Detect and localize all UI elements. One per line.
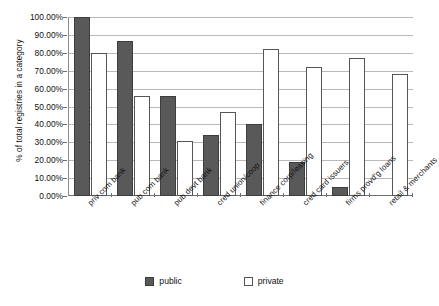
bar-public[interactable]: [74, 17, 90, 196]
y-axis-tick: [63, 142, 67, 143]
y-axis-tick: [63, 178, 67, 179]
y-axis-tick: [63, 89, 67, 90]
y-axis-tick: [63, 107, 67, 108]
y-axis-tick-label: 80.00%: [3, 48, 63, 58]
y-axis-tick-label: 100.00%: [3, 12, 63, 22]
bar-private[interactable]: [392, 74, 408, 196]
bar-private[interactable]: [91, 53, 107, 196]
y-axis-tick: [63, 17, 67, 18]
chart-legend: public private: [0, 276, 429, 286]
y-axis-tick-label: 20.00%: [3, 155, 63, 165]
legend-item-public[interactable]: public: [145, 276, 181, 286]
y-axis-tick: [63, 124, 67, 125]
legend-label-private: private: [258, 276, 284, 286]
bar-group: [69, 17, 112, 196]
y-axis-tick-label: 70.00%: [3, 66, 63, 76]
y-axis-tick-label: 60.00%: [3, 84, 63, 94]
y-axis-tick-label: 40.00%: [3, 119, 63, 129]
legend-swatch-public-icon: [145, 277, 154, 286]
legend-item-private[interactable]: private: [244, 276, 284, 286]
bar-private[interactable]: [263, 49, 279, 196]
bar-public[interactable]: [332, 187, 348, 196]
y-axis-tick: [63, 35, 67, 36]
y-axis-tick-label: 50.00%: [3, 102, 63, 112]
y-axis-tick-label: 0.00%: [3, 191, 63, 201]
legend-swatch-private-icon: [244, 277, 253, 286]
x-axis-labels: priv com bankpub com bankpub devt bankcr…: [68, 197, 412, 259]
bar-public[interactable]: [203, 135, 219, 196]
y-axis-tick-label: 10.00%: [3, 173, 63, 183]
y-axis-tick: [63, 196, 67, 197]
y-axis-tick: [63, 71, 67, 72]
bar-private[interactable]: [349, 58, 365, 196]
bar-private[interactable]: [306, 67, 322, 196]
bar-public[interactable]: [160, 96, 176, 196]
y-axis-tick-label: 90.00%: [3, 30, 63, 40]
y-axis-tick-label: 30.00%: [3, 137, 63, 147]
y-axis-tick: [63, 160, 67, 161]
y-axis-tick: [63, 53, 67, 54]
legend-label-public: public: [159, 276, 181, 286]
